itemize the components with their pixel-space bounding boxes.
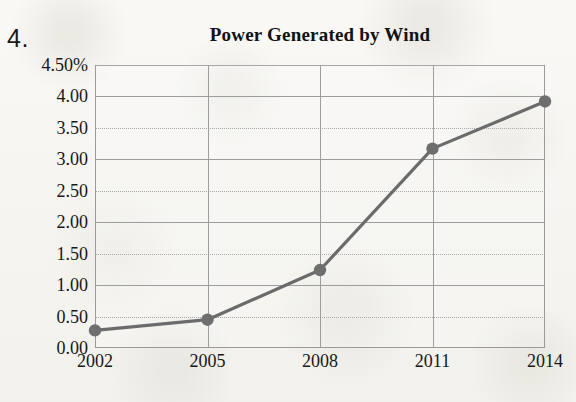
x-axis-label: 2008 [302,351,338,372]
data-line [95,101,545,330]
x-axis-label: 2005 [190,351,226,372]
y-axis-label: 4.00 [57,86,89,107]
data-point-marker [314,264,326,276]
data-series-wind [95,65,545,348]
y-axis-label: 1.50 [57,243,89,264]
x-axis-label: 2011 [415,351,450,372]
y-axis-label: 3.00 [57,149,89,170]
y-axis-label: 2.00 [57,212,89,233]
x-axis-label: 2002 [77,351,113,372]
y-axis-label: 2.50 [57,180,89,201]
worksheet-page: 4. Power Generated by Wind 0.000.501.001… [0,0,576,402]
y-axis-label: 1.00 [57,275,89,296]
y-axis-label: 0.50 [57,306,89,327]
chart-plot-area: 0.000.501.001.502.002.503.003.504.004.50… [95,65,545,348]
data-point-marker [426,142,438,154]
chart-title: Power Generated by Wind [95,24,545,46]
question-number: 4. [7,24,29,53]
x-axis-label: 2014 [527,351,563,372]
y-axis-label: 4.50% [42,55,89,76]
y-axis-label: 3.50 [57,117,89,138]
data-point-marker [89,324,101,336]
data-point-marker [539,95,551,107]
data-point-marker [201,314,213,326]
